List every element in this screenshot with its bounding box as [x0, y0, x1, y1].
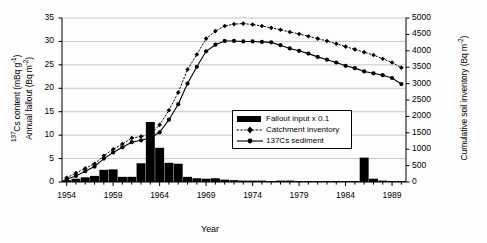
marker-inventory-1980 [306, 34, 311, 39]
marker-inventory-1983 [334, 41, 339, 46]
marker-sediment-1966 [176, 102, 180, 106]
marker-inventory-1982 [325, 39, 330, 44]
marker-sediment-1983 [334, 60, 338, 64]
bar-1962 [137, 163, 146, 182]
marker-inventory-1986 [362, 50, 367, 55]
marker-sediment-1967 [185, 82, 189, 86]
left-axis-title: 137Cs content (mBq g-1) Annual fallout (… [10, 38, 35, 158]
marker-sediment-1971 [223, 39, 227, 43]
y-left-tick-20: 20 [24, 82, 54, 92]
marker-sediment-1990 [399, 82, 403, 86]
marker-sediment-1960 [120, 145, 124, 149]
y-left-tick-5: 5 [24, 153, 54, 163]
y-right-tick-3000: 3000 [412, 78, 446, 88]
y-left-tick-25: 25 [24, 59, 54, 69]
marker-inventory-1973 [241, 21, 246, 26]
marker-inventory-1988 [380, 56, 385, 61]
y-right-tick-5000: 5000 [412, 12, 446, 22]
y-right-tick-4000: 4000 [412, 45, 446, 55]
marker-sediment-1978 [288, 46, 292, 50]
marker-sediment-1963 [148, 136, 152, 140]
y-left-tick-35: 35 [24, 12, 54, 22]
marker-inventory-1984 [343, 44, 348, 49]
marker-inventory-1977 [278, 27, 283, 32]
x-tick-1979: 1979 [279, 190, 319, 200]
bar-1961 [127, 177, 136, 182]
marker-inventory-1969 [204, 36, 209, 41]
bar-1958 [99, 170, 108, 182]
right-axis-title: Cumulative soil inventory (Bq m-2) [457, 34, 469, 162]
x-tick-1959: 1959 [93, 190, 133, 200]
marker-inventory-1972 [232, 22, 237, 27]
marker-sediment-1986 [362, 69, 366, 73]
bar-1957 [90, 176, 99, 182]
bar-1963 [146, 122, 155, 182]
marker-inventory-1979 [297, 32, 302, 37]
right-axis-title-text: Cumulative soil inventory (Bq m-2) [459, 36, 469, 161]
marker-inventory-1971 [222, 24, 227, 29]
legend-label-fallout: Fallout input x 0.1 [266, 114, 329, 123]
x-tick-1964: 1964 [140, 190, 180, 200]
x-tick-1969: 1969 [186, 190, 226, 200]
marker-sediment-1975 [260, 40, 264, 44]
marker-sediment-1954 [65, 177, 69, 181]
dotted-diamond-line-icon [236, 125, 264, 135]
y-right-tick-1500: 1500 [412, 127, 446, 137]
y-left-tick-30: 30 [24, 35, 54, 45]
marker-inventory-1990 [399, 65, 404, 70]
bar-1967 [183, 177, 192, 182]
marker-sediment-1958 [102, 156, 106, 160]
marker-sediment-1956 [83, 169, 87, 173]
marker-sediment-1977 [278, 43, 282, 47]
y-right-tick-500: 500 [412, 160, 446, 170]
marker-sediment-1973 [241, 39, 245, 43]
marker-sediment-1961 [130, 140, 134, 144]
bar-1964 [155, 148, 164, 182]
legend-label-sediment: 137Cs sediment [266, 136, 324, 145]
left-axis-title-line1: 137Cs content (mBq g-1) [11, 55, 21, 142]
marker-inventory-1989 [390, 60, 395, 65]
marker-inventory-1975 [260, 24, 265, 29]
left-axis-title-line2: Annual fallout (Bq m-2) [24, 57, 34, 140]
marker-sediment-1955 [74, 174, 78, 178]
marker-sediment-1981 [316, 55, 320, 59]
marker-sediment-1982 [325, 58, 329, 62]
marker-sediment-1962 [139, 138, 143, 142]
marker-inventory-1987 [371, 53, 376, 58]
marker-sediment-1989 [390, 76, 394, 80]
bar-1986 [360, 158, 369, 182]
marker-inventory-1967 [185, 67, 190, 72]
bar-1956 [81, 177, 90, 182]
marker-sediment-1984 [343, 64, 347, 68]
y-left-tick-15: 15 [24, 106, 54, 116]
legend-item-fallout: Fallout input x 0.1 [236, 113, 348, 124]
marker-sediment-1987 [371, 71, 375, 75]
x-tick-1989: 1989 [372, 190, 412, 200]
chart-figure: 137Cs content (mBq g-1) Annual fallout (… [0, 0, 487, 243]
marker-sediment-1969 [204, 49, 208, 53]
y-right-tick-1000: 1000 [412, 143, 446, 153]
marker-inventory-1976 [269, 26, 274, 31]
legend-item-sediment: 137Cs sediment [236, 135, 348, 146]
y-right-tick-2000: 2000 [412, 110, 446, 120]
marker-inventory-1968 [195, 52, 200, 57]
marker-inventory-1966 [176, 90, 181, 95]
marker-inventory-1974 [250, 22, 255, 27]
marker-inventory-1981 [315, 36, 320, 41]
bar-1970 [211, 178, 220, 182]
marker-sediment-1972 [232, 39, 236, 43]
x-axis-title: Year [0, 224, 420, 234]
marker-sediment-1965 [167, 118, 171, 122]
marker-sediment-1976 [269, 40, 273, 44]
marker-sediment-1979 [297, 49, 301, 53]
y-right-tick-4500: 4500 [412, 28, 446, 38]
marker-sediment-1985 [353, 66, 357, 70]
marker-sediment-1988 [381, 73, 385, 77]
x-tick-1974: 1974 [233, 190, 273, 200]
marker-sediment-1974 [250, 39, 254, 43]
marker-inventory-1978 [287, 30, 292, 35]
axis-ticks [59, 18, 410, 186]
bar-1966 [174, 164, 183, 182]
bar-1968 [192, 178, 201, 182]
legend-label-catchment: Catchment inventory [266, 125, 339, 134]
